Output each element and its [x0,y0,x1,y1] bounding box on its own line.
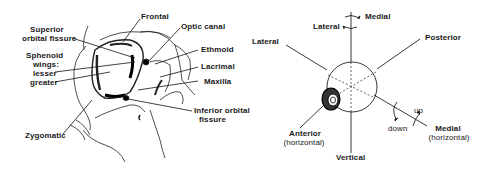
label-sphenoid-wings-line1: Sphenoid [26,51,63,60]
label-superior-orbital-fissure-line2: orbital fissure [22,34,76,43]
label-lesser: lesser [33,69,57,78]
label-down: down [388,124,408,133]
label-zygomatic: Zygomatic [25,131,66,140]
label-superior-orbital-fissure-line1: Superior [30,25,64,34]
diagram-artwork [0,0,486,173]
label-rotation-lateral: Lateral [313,22,340,31]
label-vertical-axis: Vertical [336,153,365,162]
orbit-leader-lines [55,19,198,134]
label-anterior-horizontal-line1: Anterior [280,129,330,138]
label-frontal: Frontal [141,12,169,21]
label-maxilla: Maxilla [204,77,231,86]
orbit-bones-drawing [70,26,195,162]
label-lacrimal: Lacrimal [201,62,235,71]
label-posterior-axis: Posterior [425,33,461,42]
label-sphenoid-wings-line2: wings: [33,60,59,69]
label-ethmoid: Ethmoid [201,45,234,54]
label-inferior-orbital-fissure-line2: fissure [199,115,226,124]
label-optic-canal: Optic canal [181,22,225,31]
label-up: up [414,106,423,115]
label-medial-horizontal-line1: Medial [428,124,468,133]
label-anterior-horizontal-line2: (horizontal) [276,138,332,147]
label-inferior-orbital-fissure-line1: Inferior orbital [194,106,250,115]
label-rotation-medial: Medial [365,12,391,21]
label-lateral-axis: Lateral [252,37,279,46]
label-medial-horizontal-line2: (horizontal) [422,133,476,142]
label-greater: greater [30,78,58,87]
